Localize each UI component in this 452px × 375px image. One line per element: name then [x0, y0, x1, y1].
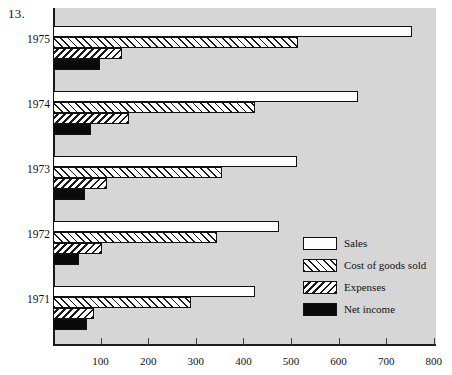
- legend-label: Cost of goods sold: [344, 259, 426, 271]
- x-axis-tick-mark: [101, 338, 102, 345]
- bar-net-income-1975: [53, 59, 100, 70]
- legend-item-net-income: Net income: [303, 299, 426, 319]
- x-axis-tick-label: 200: [140, 355, 157, 367]
- x-axis-tick-mark: [386, 338, 387, 345]
- legend-item-expenses: Expenses: [303, 277, 426, 297]
- x-axis-tick-label: 300: [188, 355, 205, 367]
- legend-item-cost-of-goods-sold: Cost of goods sold: [303, 255, 426, 275]
- x-axis-tick-label: 800: [426, 355, 443, 367]
- bar-sales-1971: [53, 286, 255, 297]
- bar-net-income-1973: [53, 189, 85, 200]
- bar-net-income-1974: [53, 124, 91, 135]
- bar-cost-of-goods-sold-1973: [53, 167, 222, 178]
- x-axis-tick-mark: [148, 338, 149, 345]
- legend-label: Expenses: [344, 281, 386, 293]
- bar-cost-of-goods-sold-1971: [53, 297, 191, 308]
- x-axis-tick-label: 700: [378, 355, 395, 367]
- legend-label: Sales: [344, 237, 367, 249]
- x-axis-tick-mark: [196, 338, 197, 345]
- chart-figure: 13. 100200300400500600700800 19751974197…: [0, 0, 452, 375]
- bar-cost-of-goods-sold-1975: [53, 37, 298, 48]
- legend-label: Net income: [344, 303, 395, 315]
- x-axis-tick-label: 100: [92, 355, 109, 367]
- bar-net-income-1971: [53, 319, 87, 330]
- x-axis-tick-mark: [243, 338, 244, 345]
- x-axis-tick-mark: [291, 338, 292, 345]
- year-label-1974: 1974: [0, 98, 50, 110]
- bar-expenses-1971: [53, 308, 94, 319]
- x-axis-tick-mark: [434, 338, 435, 345]
- bar-net-income-1972: [53, 254, 79, 265]
- bar-sales-1974: [53, 91, 358, 102]
- bar-sales-1975: [53, 26, 412, 37]
- year-label-1973: 1973: [0, 163, 50, 175]
- legend-item-sales: Sales: [303, 233, 426, 253]
- bar-expenses-1972: [53, 243, 102, 254]
- x-axis-tick-label: 600: [330, 355, 347, 367]
- bar-sales-1972: [53, 221, 279, 232]
- year-label-1972: 1972: [0, 228, 50, 240]
- bar-sales-1973: [53, 156, 297, 167]
- year-label-1975: 1975: [0, 33, 50, 45]
- bar-cost-of-goods-sold-1974: [53, 102, 255, 113]
- x-axis-tick-label: 500: [283, 355, 300, 367]
- bar-expenses-1974: [53, 113, 129, 124]
- year-label-1971: 1971: [0, 293, 50, 305]
- x-axis-tick-label: 400: [235, 355, 252, 367]
- bar-expenses-1975: [53, 48, 122, 59]
- cogs-swatch: [303, 259, 337, 272]
- net-income-swatch: [303, 303, 337, 316]
- bar-cost-of-goods-sold-1972: [53, 232, 217, 243]
- bar-expenses-1973: [53, 178, 107, 189]
- chart-legend: SalesCost of goods soldExpensesNet incom…: [303, 233, 426, 321]
- sales-swatch: [303, 237, 337, 250]
- x-axis-line: [53, 344, 436, 346]
- figure-number: 13.: [8, 6, 25, 22]
- x-axis-tick-mark: [339, 338, 340, 345]
- expenses-swatch: [303, 281, 337, 294]
